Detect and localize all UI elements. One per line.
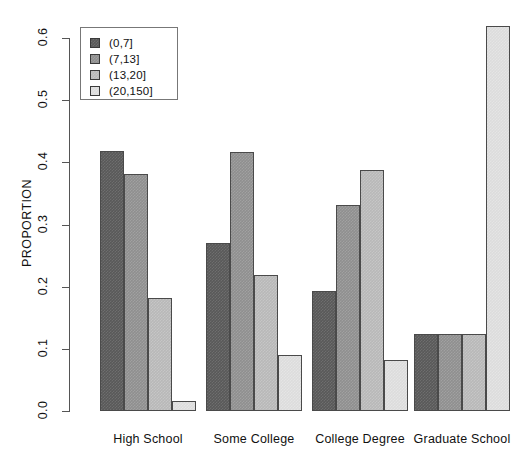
legend-item-label: (0,7] [109, 37, 133, 49]
legend-item: (7,13] [90, 51, 140, 67]
x-axis-label: Some College [194, 432, 314, 446]
legend-swatch-icon [90, 70, 100, 80]
bar [384, 360, 408, 411]
bar-group [312, 37, 408, 411]
plot-area [0, 0, 525, 469]
legend-item: (13,20] [90, 67, 146, 83]
bar [148, 298, 172, 411]
bar [172, 401, 196, 411]
legend-item: (20,150] [90, 83, 153, 99]
bar-group [414, 37, 510, 411]
x-axis-label: Graduate School [402, 432, 522, 446]
bar [278, 355, 302, 411]
legend-swatch-icon [90, 54, 100, 64]
bar [336, 205, 360, 411]
x-axis-label: High School [88, 432, 208, 446]
bar-group [206, 37, 302, 411]
legend-swatch-icon [90, 38, 100, 48]
bar [100, 151, 124, 411]
bar [414, 334, 438, 411]
bar [230, 152, 254, 411]
legend: (0,7](7,13](13,20](20,150] [80, 27, 178, 100]
bar [360, 170, 384, 411]
legend-item-label: (20,150] [109, 85, 153, 97]
bar [254, 275, 278, 411]
legend-item-label: (13,20] [109, 69, 146, 81]
bar [206, 243, 230, 411]
legend-swatch-icon [90, 86, 100, 96]
bar [124, 174, 148, 411]
bar-chart: PROPORTION 0.00.10.20.30.40.50.6 High Sc… [0, 0, 525, 469]
bar [438, 334, 462, 411]
legend-item: (0,7] [90, 35, 133, 51]
bar [312, 291, 336, 411]
bar [462, 334, 486, 411]
bar [486, 26, 510, 411]
legend-item-label: (7,13] [109, 53, 140, 65]
